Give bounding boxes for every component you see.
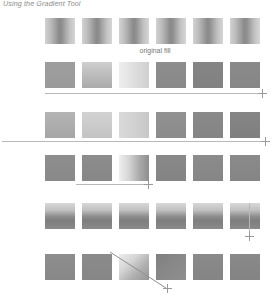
drag-endpoint-marker — [163, 284, 172, 293]
gradient-tool-figure: Using the Gradient Tool original fill — [0, 0, 277, 297]
drag-guide-line-diagonal — [0, 0, 277, 297]
